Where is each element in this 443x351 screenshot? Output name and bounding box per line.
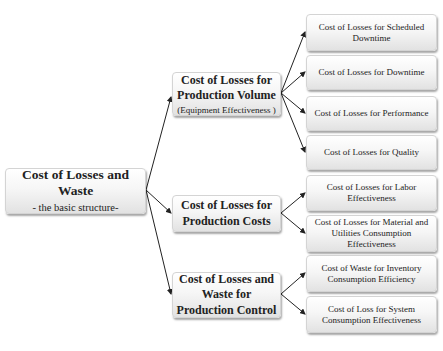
branch-production-volume: Cost of Losses for Production Volume (Eq…	[172, 72, 281, 116]
leaf-performance: Cost of Losses for Performance	[306, 96, 437, 131]
leaf-downtime: Cost of Losses for Downtime	[306, 55, 437, 90]
branch-title: Cost of Losses for Production Volume	[173, 73, 280, 104]
leaf-scheduled-downtime: Cost of Losses for Scheduled Downtime	[306, 14, 437, 51]
root-subtitle: - the basic structure-	[32, 202, 118, 215]
leaf-labor-effectiveness: Cost of Losses for Labor Effectiveness	[306, 175, 437, 211]
root-title: Cost of Losses and Waste	[6, 167, 145, 199]
branch-production-costs: Cost of Losses for Production Costs	[172, 195, 281, 232]
branch-production-control: Cost of Losses and Waste for Production …	[172, 272, 281, 318]
branch-subtitle: (Equipment Effectiveness )	[177, 105, 275, 116]
leaf-inventory-waste: Cost of Waste for Inventory Consumption …	[306, 255, 437, 292]
root-node: Cost of Losses and Waste - the basic str…	[5, 168, 146, 214]
leaf-system-consumption: Cost of Loss for System Consumption Effe…	[306, 296, 437, 333]
leaf-material-utilities: Cost of Losses for Material and Utilitie…	[306, 215, 437, 252]
branch-title: Cost of Losses for Production Costs	[173, 198, 280, 229]
branch-title: Cost of Losses and Waste for Production …	[173, 272, 280, 319]
leaf-quality: Cost of Losses for Quality	[306, 135, 437, 170]
